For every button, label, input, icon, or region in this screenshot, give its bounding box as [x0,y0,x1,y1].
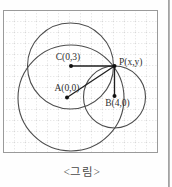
grid-dots [3,10,158,153]
geometry-figure: C(0,3) P(x,y) A(0,0) B(4,0) <그림> [0,0,172,187]
point-dot-c [69,64,73,68]
label-point-a: A(0,0) [54,83,79,94]
label-point-p: P(x,y) [119,57,143,68]
figure-caption: <그림> [64,166,101,178]
label-point-b: B(4,0) [105,98,130,109]
point-dot-p [113,64,117,68]
point-dot-a [65,96,69,100]
label-point-c: C(0,3) [56,52,81,63]
figure-page: C(0,3) P(x,y) A(0,0) B(4,0) <그림> [0,0,172,187]
page-edge-line [168,0,170,187]
